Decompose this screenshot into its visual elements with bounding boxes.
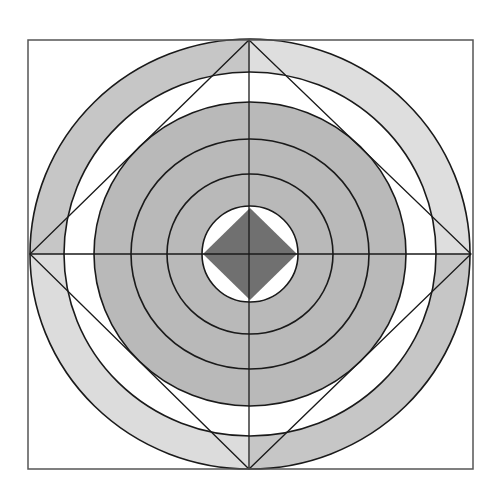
diagram-canvas: [0, 0, 499, 501]
geometric-diagram: [0, 0, 499, 501]
